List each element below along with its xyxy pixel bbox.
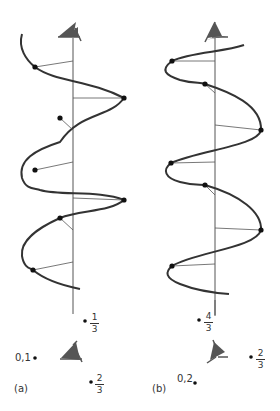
- residue-dot: [32, 64, 37, 69]
- residue-dot: [169, 58, 174, 63]
- residue-dot: [57, 215, 62, 220]
- peptide-marker-icon-b-bottom: [207, 340, 228, 363]
- peptide-marker-icon-a-bottom: [60, 341, 82, 362]
- fraction-label-1-3: 1 3: [90, 313, 99, 334]
- fraction-label-2-3: 2 3: [95, 374, 104, 395]
- residue-dot: [202, 182, 207, 187]
- residue-dot: [258, 227, 263, 232]
- point-4-3: [197, 318, 201, 322]
- helix-a: [21, 22, 127, 314]
- fraction-label-2-3-b: 2 3: [256, 349, 265, 370]
- residue-dot: [57, 115, 62, 120]
- point-2-3-b: [249, 355, 253, 359]
- residue-dot: [121, 197, 126, 202]
- residue-dot: [202, 81, 207, 86]
- fraction-label-4-3: 4 3: [204, 312, 213, 333]
- point-label-0-1: 0,1: [15, 353, 31, 363]
- point-0-1: [33, 356, 37, 360]
- peptide-marker-icon-b-top: [205, 22, 228, 42]
- peptide-marker-icon-a-top: [58, 22, 81, 41]
- point-label-0-2: 0,2: [177, 374, 193, 384]
- point-0-2: [193, 381, 197, 385]
- residue-dot: [258, 127, 263, 132]
- panel-label-b: (b): [152, 384, 166, 394]
- point-1-3: [83, 319, 87, 323]
- diagram-figure: [0, 0, 280, 411]
- wheel-b: [193, 300, 253, 385]
- helix-b: [165, 22, 263, 316]
- residue-dot: [168, 160, 173, 165]
- residue-dot: [121, 95, 126, 100]
- residue-dot: [169, 263, 174, 268]
- point-2-3: [89, 380, 93, 384]
- residue-dot: [30, 267, 35, 272]
- panel-label-a: (a): [14, 384, 28, 394]
- residue-dot: [32, 167, 37, 172]
- wheel-a: [33, 319, 93, 384]
